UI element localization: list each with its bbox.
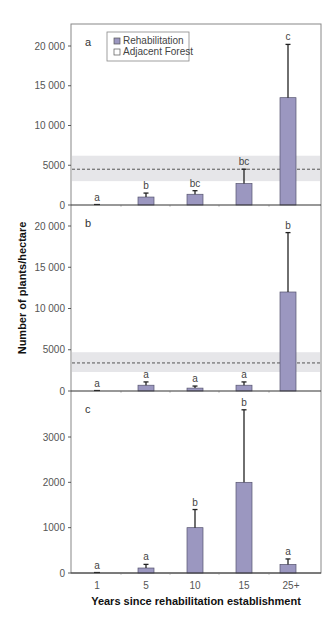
significance-letter: b bbox=[192, 497, 198, 508]
significance-letter: c bbox=[286, 31, 291, 42]
y-tick-label: 20 000 bbox=[34, 221, 65, 232]
legend-label: Adjacent Forest bbox=[123, 46, 193, 57]
x-tick-label: 15 bbox=[238, 580, 250, 591]
significance-letter: a bbox=[143, 551, 149, 562]
y-tick-label: 15 000 bbox=[34, 80, 65, 91]
y-tick-label: 5000 bbox=[43, 160, 66, 171]
panel-label: c bbox=[85, 403, 91, 415]
x-tick-label: 25+ bbox=[283, 580, 300, 591]
bar bbox=[138, 197, 154, 205]
significance-letter: a bbox=[94, 378, 100, 389]
y-tick-label: 1000 bbox=[43, 522, 66, 533]
bar bbox=[187, 194, 203, 205]
y-tick-label: 10 000 bbox=[34, 120, 65, 131]
legend: RehabilitationAdjacent Forest bbox=[107, 32, 193, 61]
y-tick-label: 10 000 bbox=[34, 303, 65, 314]
panel-c: 0100020003000aabbac bbox=[43, 397, 321, 579]
y-tick-label: 0 bbox=[59, 386, 65, 397]
significance-letter: a bbox=[94, 560, 100, 571]
y-tick-label: 15 000 bbox=[34, 262, 65, 273]
bar bbox=[280, 98, 296, 205]
x-tick-label: 10 bbox=[189, 580, 201, 591]
panel-label: b bbox=[85, 217, 91, 229]
x-tick-label: 1 bbox=[94, 580, 100, 591]
panel-b: 0500010 00015 00020 000aaaabb bbox=[34, 217, 321, 397]
figure: 0500010 00015 00020 000abbcbccaRehabilit… bbox=[0, 0, 336, 625]
bar bbox=[280, 564, 296, 573]
y-tick-label: 0 bbox=[59, 568, 65, 579]
legend-label: Rehabilitation bbox=[123, 35, 184, 46]
bar bbox=[236, 385, 252, 391]
bar bbox=[187, 528, 203, 573]
bar bbox=[138, 385, 154, 391]
significance-letter: a bbox=[285, 546, 291, 557]
bar bbox=[236, 184, 252, 205]
legend-swatch-open-icon bbox=[114, 49, 120, 55]
x-axis-title: Years since rehabilitation establishment bbox=[91, 595, 301, 607]
significance-letter: b bbox=[143, 180, 149, 191]
bar bbox=[138, 568, 154, 573]
significance-letter: bc bbox=[190, 178, 201, 189]
y-tick-label: 3000 bbox=[43, 432, 66, 443]
significance-letter: a bbox=[192, 373, 198, 384]
significance-letter: b bbox=[241, 397, 247, 408]
x-tick-label: 5 bbox=[143, 580, 149, 591]
significance-letter: a bbox=[241, 369, 247, 380]
panel-a: 0500010 00015 00020 000abbcbccaRehabilit… bbox=[34, 31, 321, 210]
y-tick-label: 20 000 bbox=[34, 41, 65, 52]
bar bbox=[236, 482, 252, 573]
significance-letter: bc bbox=[239, 156, 250, 167]
significance-letter: a bbox=[143, 369, 149, 380]
significance-letter: b bbox=[285, 220, 291, 231]
y-tick-label: 5000 bbox=[43, 344, 66, 355]
panel-label: a bbox=[85, 36, 92, 48]
y-tick-label: 0 bbox=[59, 200, 65, 211]
y-axis-title: Number of plants/hectare bbox=[16, 222, 28, 355]
legend-swatch-filled-icon bbox=[114, 38, 120, 44]
bar bbox=[280, 292, 296, 391]
y-tick-label: 2000 bbox=[43, 477, 66, 488]
significance-letter: a bbox=[94, 192, 100, 203]
